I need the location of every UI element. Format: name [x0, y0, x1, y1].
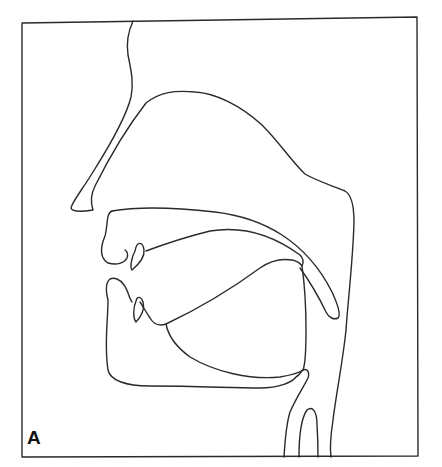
- panel-label: A: [27, 427, 41, 449]
- upper-incisor: [131, 243, 144, 270]
- lower-lip-jaw: [106, 278, 303, 388]
- nose-profile: [71, 21, 354, 457]
- vocal-tract-diagram: [0, 0, 442, 467]
- upper-lip-palate: [102, 211, 128, 264]
- figure-frame: [22, 17, 418, 457]
- tongue-dorsum: [166, 259, 306, 377]
- larynx-opening: [299, 409, 318, 457]
- lower-incisor: [134, 297, 144, 322]
